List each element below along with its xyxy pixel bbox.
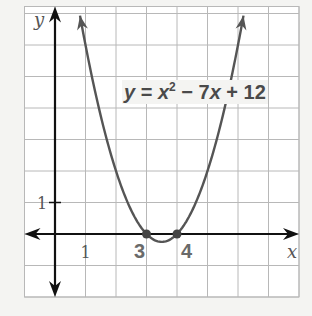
parabola-graph: 1341xy (0, 0, 312, 316)
equation-label: y = x2 − 7x + 12 (122, 80, 268, 104)
svg-text:y: y (33, 9, 45, 30)
grid-lines (25, 7, 300, 298)
svg-text:4: 4 (181, 240, 193, 262)
svg-text:1: 1 (80, 243, 90, 262)
intercept-point (173, 230, 182, 239)
svg-text:1: 1 (37, 194, 47, 213)
svg-text:x: x (287, 241, 297, 262)
intercept-point (142, 230, 151, 239)
svg-text:3: 3 (134, 240, 145, 262)
